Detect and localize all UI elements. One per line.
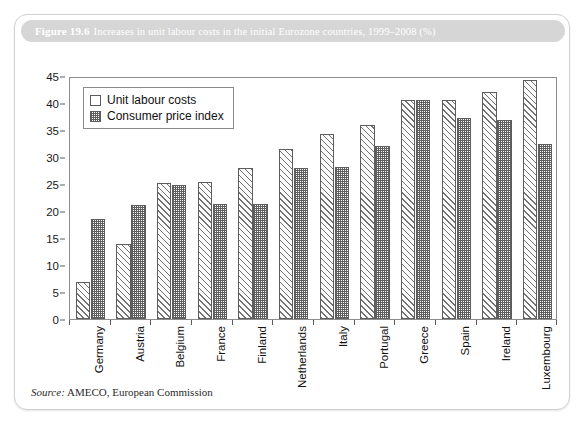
x-axis-label-netherlands: Netherlands: [297, 326, 309, 388]
x-axis-tick-mark: [191, 320, 192, 325]
y-axis-tick-label: 5: [53, 287, 59, 299]
x-axis-label-ireland: Ireland: [501, 326, 513, 361]
bar-unit-labour-costs: [279, 149, 294, 319]
y-axis-tick-label: 15: [46, 233, 59, 245]
y-axis-tick-label: 45: [46, 71, 59, 83]
x-axis-label-france: France: [216, 326, 228, 362]
x-axis-label-portugal: Portugal: [379, 326, 391, 369]
y-axis-tick-mark: [60, 212, 65, 213]
figure-card: Figure 19.6Increases in unit labour cost…: [14, 14, 570, 410]
x-axis-label-belgium: Belgium: [175, 326, 187, 368]
bar-consumer-price-index: [538, 144, 553, 320]
bar-cluster: [273, 78, 314, 319]
source-text: AMECO, European Commission: [67, 386, 213, 398]
x-axis-label-luxembourg: Luxembourg: [541, 326, 553, 390]
bar-unit-labour-costs: [401, 100, 416, 319]
x-axis-tick-mark: [272, 320, 273, 325]
bar-cluster: [395, 78, 436, 319]
bar-consumer-price-index: [416, 100, 431, 319]
bar-cluster: [517, 78, 558, 319]
bar-cluster: [314, 78, 355, 319]
source-note: Source: AMECO, European Commission: [31, 386, 213, 398]
y-axis-tick-mark: [60, 77, 65, 78]
bar-cluster: [233, 78, 274, 319]
y-axis-tick-mark: [60, 266, 65, 267]
legend-item-unit-labour-costs: Unit labour costs: [90, 92, 224, 108]
x-axis-tick-mark: [150, 320, 151, 325]
x-axis-tick-mark: [69, 320, 70, 325]
legend-swatch-unit-labour-costs: [90, 95, 101, 106]
y-axis-tick-mark: [60, 320, 65, 321]
x-axis-tick-mark: [354, 320, 355, 325]
x-axis-tick-mark: [556, 320, 557, 325]
bar-unit-labour-costs: [198, 182, 213, 319]
bar-consumer-price-index: [375, 146, 390, 319]
figure-caption: Increases in unit labour costs in the in…: [94, 26, 436, 37]
x-axis-tick-mark: [394, 320, 395, 325]
bar-unit-labour-costs: [116, 244, 131, 319]
x-axis-tick-mark: [435, 320, 436, 325]
y-axis-tick-label: 40: [46, 98, 59, 110]
bar-consumer-price-index: [335, 167, 350, 319]
y-axis-tick-mark: [60, 131, 65, 132]
y-axis-tick-label: 0: [53, 314, 59, 326]
legend-label-consumer-price-index: Consumer price index: [107, 109, 224, 123]
x-axis-label-austria: Austria: [135, 326, 147, 362]
bar-unit-labour-costs: [442, 100, 457, 319]
bar-cluster: [436, 78, 477, 319]
figure-title-bar: Figure 19.6Increases in unit labour cost…: [21, 20, 565, 42]
x-axis-label-italy: Italy: [338, 326, 350, 347]
bar-consumer-price-index: [253, 204, 268, 319]
y-axis-tick-mark: [60, 158, 65, 159]
source-label: Source:: [31, 386, 65, 398]
bar-consumer-price-index: [457, 118, 472, 319]
bar-consumer-price-index: [91, 219, 106, 319]
x-axis-tick-mark: [313, 320, 314, 325]
bar-unit-labour-costs: [320, 134, 335, 319]
bar-consumer-price-index: [172, 185, 187, 319]
legend-item-consumer-price-index: Consumer price index: [90, 108, 224, 124]
y-axis-tick-mark: [60, 104, 65, 105]
bar-unit-labour-costs: [157, 183, 172, 319]
x-axis-tick-mark: [110, 320, 111, 325]
y-axis-tick-label: 25: [46, 179, 59, 191]
x-axis-label-spain: Spain: [460, 326, 472, 355]
y-axis-tick-label: 35: [46, 125, 59, 137]
x-axis-labels: GermanyAustriaBelgiumFranceFinlandNether…: [69, 326, 557, 388]
bar-unit-labour-costs: [523, 80, 538, 319]
x-axis-tick-mark: [476, 320, 477, 325]
bar-unit-labour-costs: [360, 125, 375, 319]
bar-consumer-price-index: [131, 205, 146, 319]
x-axis-label-finland: Finland: [257, 326, 269, 364]
bar-unit-labour-costs: [238, 168, 253, 319]
bar-consumer-price-index: [294, 168, 309, 319]
x-axis-tick-mark: [232, 320, 233, 325]
x-axis-label-greece: Greece: [419, 326, 431, 364]
y-axis-tick-label: 10: [46, 260, 59, 272]
y-axis-tick-label: 20: [46, 206, 59, 218]
bar-consumer-price-index: [497, 120, 512, 319]
bar-unit-labour-costs: [482, 92, 497, 319]
x-axis-tick-mark: [516, 320, 517, 325]
y-axis-tick-mark: [60, 185, 65, 186]
y-axis-tick-label: 30: [46, 152, 59, 164]
bar-cluster: [477, 78, 518, 319]
y-axis-tick-mark: [60, 293, 65, 294]
bar-unit-labour-costs: [76, 282, 91, 319]
legend-label-unit-labour-costs: Unit labour costs: [107, 93, 196, 107]
bar-cluster: [355, 78, 396, 319]
figure-number: Figure 19.6: [35, 25, 90, 37]
bar-consumer-price-index: [213, 204, 228, 319]
chart-legend: Unit labour costs Consumer price index: [83, 87, 234, 129]
x-axis-label-germany: Germany: [94, 326, 106, 373]
y-axis-tick-mark: [60, 239, 65, 240]
y-axis: 051015202530354045: [35, 77, 65, 320]
legend-swatch-consumer-price-index: [90, 111, 101, 122]
